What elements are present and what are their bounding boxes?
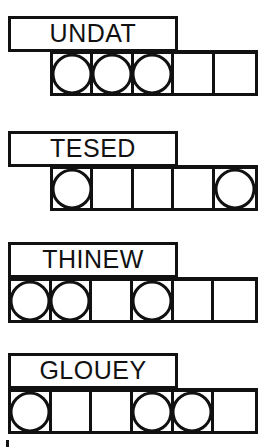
scrambled-word-text: TESED	[50, 136, 136, 162]
margin-tick-mark	[6, 440, 9, 447]
circle-marker-icon	[51, 168, 92, 209]
circle-marker-icon	[131, 280, 172, 321]
puzzle-sheet: UNDATTESEDTHINEWGLOUEY	[0, 0, 268, 447]
circle-marker-icon	[131, 391, 172, 432]
answer-cell[interactable]	[215, 169, 255, 208]
answer-cell[interactable]	[174, 392, 215, 431]
answer-grid	[50, 50, 258, 96]
circle-marker-icon	[172, 391, 213, 432]
scrambled-word-text: THINEW	[42, 247, 144, 273]
scrambled-word-box: UNDAT	[8, 16, 178, 52]
scrambled-word-text: UNDAT	[50, 21, 137, 47]
circle-marker-icon	[9, 280, 50, 321]
answer-cell[interactable]	[52, 392, 93, 431]
scrambled-word-box: GLOUEY	[8, 353, 178, 389]
circle-marker-icon	[51, 53, 92, 94]
circle-marker-icon	[9, 391, 50, 432]
answer-cell[interactable]	[174, 54, 214, 93]
answer-cell[interactable]	[174, 281, 215, 320]
circle-marker-icon	[214, 168, 255, 209]
scrambled-word-text: GLOUEY	[39, 358, 146, 384]
answer-cell[interactable]	[53, 169, 93, 208]
circle-marker-icon	[50, 280, 91, 321]
answer-cell[interactable]	[134, 54, 174, 93]
answer-cell[interactable]	[214, 392, 255, 431]
scrambled-word-box: THINEW	[8, 242, 178, 278]
answer-cell[interactable]	[215, 54, 255, 93]
answer-cell[interactable]	[53, 54, 93, 93]
answer-grid	[50, 165, 258, 211]
answer-cell[interactable]	[11, 392, 52, 431]
answer-cell[interactable]	[174, 169, 214, 208]
answer-cell[interactable]	[214, 281, 255, 320]
answer-grid	[8, 277, 258, 323]
answer-grid	[8, 388, 258, 434]
circle-marker-icon	[132, 53, 173, 94]
answer-cell[interactable]	[93, 169, 133, 208]
answer-cell[interactable]	[133, 392, 174, 431]
answer-cell[interactable]	[93, 54, 133, 93]
answer-cell[interactable]	[134, 169, 174, 208]
circle-marker-icon	[92, 53, 133, 94]
answer-cell[interactable]	[11, 281, 52, 320]
answer-cell[interactable]	[52, 281, 93, 320]
answer-cell[interactable]	[92, 281, 133, 320]
answer-cell[interactable]	[133, 281, 174, 320]
scrambled-word-box: TESED	[8, 131, 178, 167]
answer-cell[interactable]	[92, 392, 133, 431]
